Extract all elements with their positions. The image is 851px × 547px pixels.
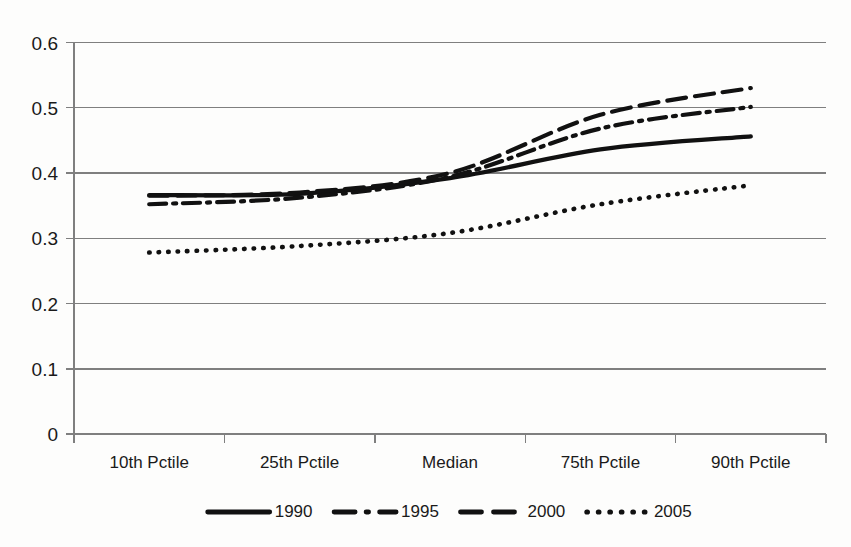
legend-label-1990: 1990	[275, 502, 313, 521]
y-tick-label-0.5: 0.5	[32, 98, 58, 119]
x-tick-label-10th: 10th Pctile	[110, 453, 189, 472]
legend-label-2000: 2000	[528, 502, 566, 521]
line-chart: 0.6 0.5 0.4 0.3 0.2 0.1 0 10th Pctile 25…	[0, 0, 851, 547]
y-tick-label-0.2: 0.2	[32, 294, 58, 315]
y-tick-label-0.4: 0.4	[32, 163, 59, 184]
x-tick-label-25th: 25th Pctile	[260, 453, 339, 472]
y-tick-label-0.1: 0.1	[32, 359, 58, 380]
x-tick-label-median: Median	[422, 453, 478, 472]
y-tick-label-0.6: 0.6	[32, 33, 58, 54]
x-tick-label-90th: 90th Pctile	[711, 453, 790, 472]
y-tick-label-0: 0	[47, 424, 58, 445]
legend-label-1995: 1995	[401, 502, 439, 521]
legend-label-2005: 2005	[654, 502, 692, 521]
y-tick-label-0.3: 0.3	[32, 228, 58, 249]
chart-container: 0.6 0.5 0.4 0.3 0.2 0.1 0 10th Pctile 25…	[0, 0, 851, 547]
x-tick-label-75th: 75th Pctile	[561, 453, 640, 472]
